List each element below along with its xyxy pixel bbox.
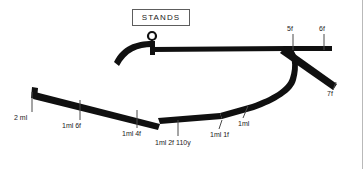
distance-label-1ml4f: 1ml 4f [122, 130, 141, 137]
stands-label-box: STANDS [132, 9, 190, 26]
distance-label-2ml: 2 ml [14, 114, 27, 121]
distance-label-5f: 5f [287, 25, 293, 32]
home-straight [152, 46, 332, 52]
back-straight-lower [158, 113, 222, 124]
left-curved-chute [114, 41, 152, 66]
racecourse-diagram: STANDS 2 ml 1ml 6f 1ml 4f 1ml 2f 110y 1m… [0, 0, 363, 169]
tick-1ml1f [219, 120, 222, 129]
back-straight-diagonal [33, 92, 160, 130]
distance-label-7f: 7f [327, 90, 333, 97]
stands-label-text: STANDS [142, 14, 180, 22]
distance-label-6f: 6f [319, 25, 325, 32]
distance-label-1ml: 1ml [238, 120, 249, 127]
distance-label-1ml1f: 1ml 1f [210, 131, 229, 138]
track-circuit [31, 46, 332, 130]
distance-label-1ml2f110y: 1ml 2f 110y [155, 139, 191, 146]
distance-label-1ml6f: 1ml 6f [62, 122, 81, 129]
